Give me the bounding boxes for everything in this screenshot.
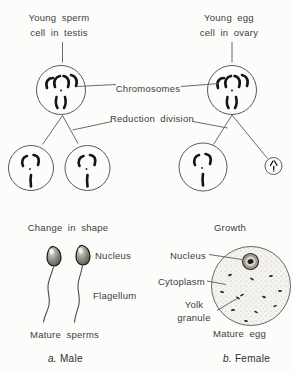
change-in-shape-label: Change in shape — [28, 221, 109, 236]
caption-female: b.Female — [223, 352, 270, 367]
leader-chromosomes-right — [181, 84, 219, 87]
cytoplasm-label: Cytoplasm — [158, 275, 205, 290]
yolk-granule-label: Yolk granule — [177, 298, 210, 324]
caption-male-index: a. — [48, 353, 57, 364]
leader-reduction-right — [193, 122, 228, 129]
sperm-tail — [75, 266, 83, 323]
caption-male-text: Male — [60, 353, 83, 364]
caption-female-index: b. — [223, 353, 232, 364]
leader-chromosomes-left — [77, 85, 117, 87]
gametogenesis-diagram: Young sperm cell in testis Young egg cel… — [0, 0, 293, 371]
mature-egg-figure — [212, 247, 291, 326]
caption-female-text: Female — [235, 353, 270, 364]
chromosomes-label: Chromosomes — [116, 82, 181, 97]
mature-egg-label: Mature egg — [213, 327, 266, 342]
young-sperm-cell-label: Young sperm cell in testis — [29, 11, 90, 40]
caption-male: a.Male — [48, 352, 83, 367]
sperm-nucleus-label: Nucleus — [95, 249, 131, 264]
sperm-tail — [44, 267, 54, 323]
sperm-figure-2 — [75, 245, 91, 322]
growth-label: Growth — [214, 221, 246, 236]
polar-body-chromosomes — [271, 161, 278, 172]
sperm-head — [76, 245, 90, 265]
reduction-division-label: Reduction division — [110, 112, 194, 127]
egg-nucleus — [243, 254, 259, 270]
flagellum-label: Flagellum — [93, 289, 136, 304]
leader-reduction-left — [73, 122, 113, 131]
young-egg-cell-label: Young egg cell in ovary — [200, 11, 258, 40]
mature-sperms-label: Mature sperms — [30, 328, 99, 343]
sperm-figure-1 — [44, 246, 62, 322]
egg-nucleus-label: Nucleus — [170, 249, 206, 264]
diagram-artwork — [0, 0, 293, 371]
sperm-head — [47, 246, 61, 266]
